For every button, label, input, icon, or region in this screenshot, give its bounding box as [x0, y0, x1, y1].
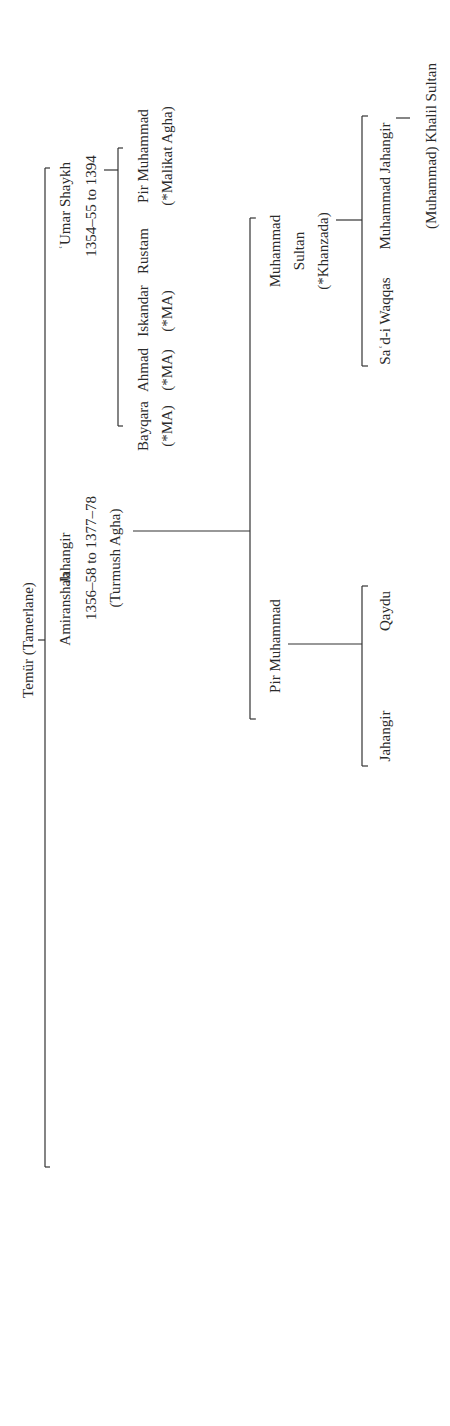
- node-amiranshah-label: Amiranshah: [57, 572, 73, 646]
- node-muhammad-sultan-mother: (*Khanzada): [315, 212, 332, 289]
- node-iskandar-mother: (*MA): [159, 290, 176, 332]
- diagram-canvas: Temür (Tamerlane) ʿUmar Shaykh 1354–55 t…: [0, 0, 450, 1426]
- node-rustam: Rustam: [135, 228, 151, 274]
- node-qaydu: Qaydu: [377, 591, 393, 631]
- tree-group: Temür (Tamerlane) ʿUmar Shaykh 1354–55 t…: [20, 63, 440, 1167]
- node-pir-muhammad-1: Pir Muhammad: [135, 109, 151, 203]
- node-jahangir-mother: (Turmush Agha): [107, 508, 124, 607]
- node-jahangir-dates: 1356–58 to 1377–78: [83, 496, 99, 620]
- node-bayqara: Bayqara: [135, 401, 151, 451]
- node-muhammad-jahangir: Muhammad Jahangir: [377, 122, 393, 249]
- node-ahmad-mother: (*MA): [159, 349, 176, 391]
- node-umar-shaykh-dates: 1354–55 to 1394: [83, 155, 99, 257]
- node-bayqara-mother: (*MA): [159, 405, 176, 447]
- node-khalil-sultan-2: (Muhammad) Khalil Sultan: [423, 63, 440, 229]
- genealogy-diagram: Temür (Tamerlane) ʿUmar Shaykh 1354–55 t…: [0, 0, 450, 1426]
- node-temur: Temür (Tamerlane): [20, 582, 37, 698]
- node-jahangir-2: Jahangir: [377, 711, 393, 762]
- node-pir-muhammad-2: Pir Muhammad: [267, 599, 283, 693]
- node-pir-muhammad-1-mother: (*Malikat Agha): [159, 106, 176, 206]
- node-muhammad-sultan-2: Sultan: [291, 231, 307, 270]
- node-umar-shaykh: ʿUmar Shaykh: [57, 162, 73, 250]
- node-ahmad: Ahmad: [135, 347, 151, 392]
- node-iskandar: Iskandar: [135, 285, 151, 337]
- node-sadi-waqqas: Saʿd-i Waqqas: [377, 277, 393, 364]
- node-muhammad-sultan: Muhammad: [267, 214, 283, 287]
